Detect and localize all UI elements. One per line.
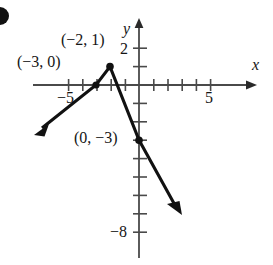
point-x-intercept <box>92 81 99 88</box>
x-tick-label-5: 5 <box>205 90 213 106</box>
y-axis-arrowhead <box>135 18 144 28</box>
graph-figure: x y −5 5 2 −8 (−2, 1) (−3, 0) (0, −3) <box>0 0 273 265</box>
x-axis-label: x <box>252 57 259 73</box>
label-x-intercept: (−3, 0) <box>17 54 61 70</box>
point-y-intercept <box>135 136 143 144</box>
y-tick-label-neg8: −8 <box>110 224 127 240</box>
curve-right-arrowhead <box>167 201 182 215</box>
coordinate-plane <box>0 0 273 265</box>
x-axis-arrowhead <box>246 81 257 90</box>
y-tick-label-2: 2 <box>120 41 128 57</box>
label-y-intercept: (0, −3) <box>74 130 118 146</box>
x-tick-label-neg5: −5 <box>57 90 74 106</box>
label-vertex: (−2, 1) <box>61 32 105 48</box>
point-vertex <box>106 63 114 71</box>
y-axis-label: y <box>123 21 130 37</box>
curve-left-arrowhead <box>34 124 49 137</box>
